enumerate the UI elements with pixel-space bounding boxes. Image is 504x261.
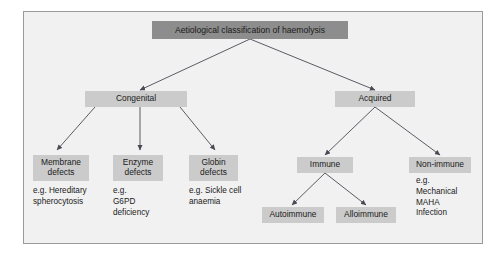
note-membrane-examples: e.g. Hereditary spherocytosis [33,186,113,208]
note-enzyme-examples: e.g. G6PD deficiency [113,186,171,218]
node-root-label: Aetiological classification of haemolysi… [175,25,325,35]
note-globin-examples: e.g. Sickle cell anaemia [189,186,267,208]
node-membrane-defects: Membrane defects [33,155,89,181]
node-autoimmune-label: Autoimmune [269,210,316,220]
node-immune-label: Immune [310,160,340,170]
node-acquired: Acquired [335,91,415,107]
node-acquired-label: Acquired [358,94,391,104]
figure-root: Aetiological classification of haemolysi… [0,0,504,261]
node-non-immune: Non-immune [409,157,471,173]
node-autoimmune: Autoimmune [262,207,324,223]
node-enzyme-defects-label: Enzyme defects [123,158,153,178]
figure-frame [23,11,483,244]
node-congenital-label: Congenital [116,94,156,104]
node-alloimmune-label: Alloimmune [344,210,388,220]
node-non-immune-label: Non-immune [416,160,464,170]
node-immune: Immune [297,157,353,173]
node-alloimmune: Alloimmune [336,207,396,223]
node-root-aetiological-classification: Aetiological classification of haemolysi… [152,21,348,39]
note-non-immune-examples: e.g. Mechanical MAHA Infection [416,176,480,219]
node-globin-defects: Globin defects [189,155,238,181]
node-congenital: Congenital [85,91,187,107]
node-enzyme-defects: Enzyme defects [113,155,163,181]
node-membrane-defects-label: Membrane defects [41,158,81,178]
node-globin-defects-label: Globin defects [200,158,227,178]
